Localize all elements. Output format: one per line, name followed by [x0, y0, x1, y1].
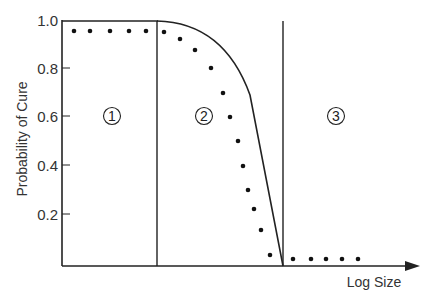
y-tick-label-0.8: 0.8	[37, 60, 58, 77]
probability-of-cure-chart: 1.0 0.8 0.6 0.4 0.2 Probability of Cure …	[0, 0, 438, 297]
svg-text:1: 1	[108, 108, 116, 124]
theoretical-curve	[157, 21, 283, 266]
y-axis-label: Probability of Cure	[14, 81, 30, 196]
y-tick-label-1.0: 1.0	[37, 12, 58, 29]
y-tick-label-0.6: 0.6	[37, 108, 58, 125]
region-label-3: 3	[328, 108, 345, 125]
region-label-1: 1	[104, 108, 121, 125]
region-label-2: 2	[196, 108, 213, 125]
svg-text:3: 3	[332, 108, 340, 124]
y-tick-label-0.2: 0.2	[37, 206, 58, 223]
observed-dots	[72, 29, 361, 262]
x-axis-label: Log Size	[347, 274, 402, 290]
x-axis-arrow-icon	[405, 261, 420, 271]
y-tick-label-0.4: 0.4	[37, 157, 58, 174]
y-ticks	[62, 68, 70, 214]
svg-text:2: 2	[200, 108, 208, 124]
